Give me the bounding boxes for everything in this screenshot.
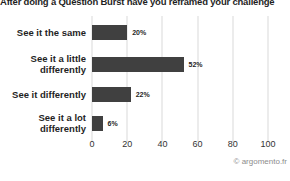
bar [92,25,127,40]
bar-row: 20% [92,25,268,40]
category-label: See it differently [12,89,86,100]
bar [92,116,103,131]
bar-row: 6% [92,116,268,131]
category-label: See it the same [17,27,86,38]
plot-area: 20% 52% 22% 6% [92,16,268,142]
bar [92,87,131,102]
value-label: 52% [189,61,203,68]
x-tick-label: 100 [260,139,275,149]
bar-row: 52% [92,57,268,72]
bar [92,57,184,72]
x-tick-label: 40 [157,139,167,149]
x-tick-label: 20 [122,139,132,149]
category-label: See it a little differently [2,53,86,75]
x-tick-label: 60 [193,139,203,149]
x-tick-label: 0 [89,139,94,149]
value-label: 20% [132,29,146,36]
category-label: See it a lot differently [2,112,86,134]
value-label: 22% [136,91,150,98]
value-label: 6% [108,120,118,127]
attribution: © argomento.fr [234,157,287,166]
category-axis: See it the same See it a little differen… [0,0,88,181]
x-tick-label: 80 [228,139,238,149]
x-axis-ticks: 020406080100 [92,139,268,151]
bar-chart: After doing a Question Burst have you re… [0,0,290,181]
bar-row: 22% [92,87,268,102]
